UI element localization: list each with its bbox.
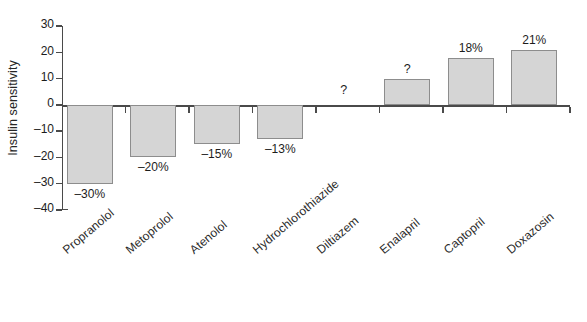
bar-unknown-marker: ? — [340, 83, 347, 97]
bar-captopril[interactable] — [448, 58, 494, 105]
y-tick-label: 30 — [2, 17, 54, 31]
y-tick: –40 — [56, 209, 62, 210]
category-label-captopril: Captopril — [441, 215, 487, 257]
bar-hydrochlorothiazide[interactable] — [257, 105, 303, 139]
bar-value-label: –30% — [74, 187, 105, 201]
y-axis-foot-tick — [62, 209, 68, 210]
y-tick: –20 — [56, 157, 62, 158]
x-tick — [188, 107, 189, 113]
category-label-propranolol: Propranolol — [60, 206, 117, 257]
category-label-atenolol: Atenolol — [187, 218, 230, 257]
x-tick — [379, 107, 380, 113]
category-label-diltiazem: Diltiazem — [314, 214, 361, 257]
bar-value-label: –15% — [201, 147, 232, 161]
bar-enalapril[interactable] — [384, 79, 430, 105]
insulin-sensitivity-bar-chart: Insulin sensitivity 3020100–10–20–30–40 … — [0, 0, 587, 322]
bar-doxazosin[interactable] — [511, 50, 557, 105]
bar-atenolol[interactable] — [194, 105, 240, 144]
category-label-doxazosin: Doxazosin — [504, 209, 557, 256]
x-tick — [442, 107, 443, 113]
category-label-metoprolol: Metoprolol — [123, 209, 176, 256]
bar-value-label: 18% — [459, 41, 483, 55]
x-tick — [125, 107, 126, 113]
y-tick-label: –40 — [2, 201, 54, 215]
y-tick: –10 — [56, 130, 62, 131]
y-tick: 20 — [56, 52, 62, 53]
y-tick-label: –10 — [2, 122, 54, 136]
y-tick-label: 0 — [2, 96, 54, 110]
x-tick — [252, 107, 253, 113]
x-tick — [569, 107, 570, 113]
y-tick: 30 — [56, 25, 62, 26]
category-label-enalapril: Enalapril — [377, 215, 422, 256]
y-axis-line — [62, 26, 63, 210]
y-tick-label: –30 — [2, 175, 54, 189]
y-tick: 0 — [56, 104, 62, 105]
bar-unknown-marker: ? — [404, 62, 411, 76]
y-tick-label: 20 — [2, 44, 54, 58]
bar-value-label: –20% — [138, 160, 169, 174]
y-tick-label: 10 — [2, 70, 54, 84]
x-tick — [315, 107, 316, 113]
y-tick-label: –20 — [2, 149, 54, 163]
bar-value-label: –13% — [265, 142, 296, 156]
y-tick: 10 — [56, 78, 62, 79]
bar-value-label: 21% — [522, 33, 546, 47]
bar-metoprolol[interactable] — [130, 105, 176, 158]
bar-propranolol[interactable] — [67, 105, 113, 184]
y-tick: –30 — [56, 183, 62, 184]
x-tick — [506, 107, 507, 113]
